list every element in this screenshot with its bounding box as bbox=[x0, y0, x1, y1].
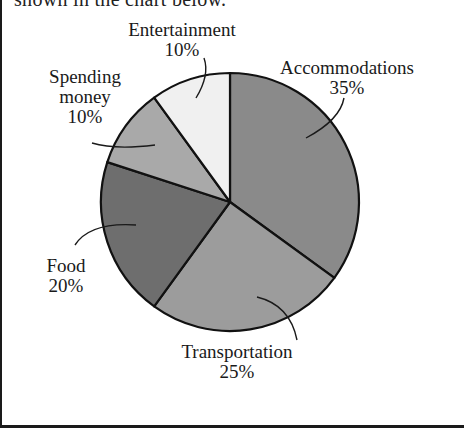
label-transportation: Transportation 25% bbox=[172, 342, 302, 382]
label-accommodations: Accommodations 35% bbox=[262, 58, 432, 98]
pie-slices bbox=[101, 73, 359, 331]
label-food: Food 20% bbox=[36, 256, 96, 296]
label-spending-money: Spending money 10% bbox=[40, 67, 130, 127]
label-entertainment: Entertainment 10% bbox=[112, 20, 252, 60]
